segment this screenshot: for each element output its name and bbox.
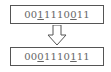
down-arrow-icon (47, 25, 67, 46)
before-bit-9: 1 (83, 9, 90, 20)
after-bit-9: 1 (83, 51, 90, 62)
before-chromosome-box: 0011110011 (10, 5, 104, 24)
after-chromosome-box: 0001110111 (10, 47, 104, 66)
